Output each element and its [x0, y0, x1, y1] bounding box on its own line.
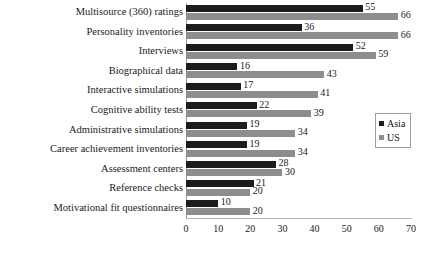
category-label: Interactive simulations: [87, 85, 183, 96]
bar-value-label: 34: [298, 127, 308, 137]
category-label: Administrative simulations: [69, 125, 183, 136]
legend-item-asia: Asia: [379, 117, 405, 131]
bar-us: [186, 91, 318, 98]
x-tick-label: 40: [310, 224, 320, 234]
bar-us: [186, 52, 376, 59]
bar-value-label: 10: [221, 197, 231, 207]
bar-value-label: 16: [240, 61, 250, 71]
bar-value-label: 41: [320, 88, 330, 98]
bar-asia: [186, 122, 247, 129]
legend-label-asia: Asia: [387, 117, 405, 131]
bar-value-label: 17: [243, 80, 253, 90]
bar-value-label: 52: [356, 41, 366, 51]
bar-us: [186, 208, 250, 215]
bar-value-label: 66: [401, 10, 411, 20]
bar-asia: [186, 200, 218, 207]
bar-chart: Multisource (360) ratings5566Personality…: [0, 0, 435, 253]
bar-value-label: 19: [250, 119, 260, 129]
bar-asia: [186, 5, 363, 12]
category-label: Biographical data: [109, 66, 183, 77]
bar-asia: [186, 180, 254, 187]
x-tick-label: 20: [245, 224, 255, 234]
bar-value-label: 39: [314, 108, 324, 118]
bar-value-label: 30: [285, 167, 295, 177]
bar-value-label: 66: [401, 30, 411, 40]
bar-asia: [186, 102, 257, 109]
bar-us: [186, 169, 282, 176]
category-label: Motivational fit questionnaires: [54, 203, 183, 214]
bar-asia: [186, 83, 241, 90]
bar-asia: [186, 161, 276, 168]
category-label: Multisource (360) ratings: [76, 7, 183, 18]
x-tick-label: 30: [277, 224, 287, 234]
category-label: Interviews: [139, 46, 183, 57]
bar-asia: [186, 141, 247, 148]
bar-us: [186, 32, 398, 39]
bar-value-label: 36: [304, 22, 314, 32]
bar-value-label: 22: [259, 100, 269, 110]
bar-value-label: 43: [327, 69, 337, 79]
category-label: Career achievement inventories: [50, 144, 183, 155]
bar-us: [186, 13, 398, 20]
legend-label-us: US: [387, 131, 400, 145]
x-axis-line: [186, 218, 412, 219]
bar-asia: [186, 63, 237, 70]
bar-us: [186, 150, 295, 157]
x-tick-label: 0: [184, 224, 189, 234]
category-label: Personality inventories: [86, 27, 183, 38]
x-tick-label: 10: [213, 224, 223, 234]
category-label: Reference checks: [109, 183, 183, 194]
bar-asia: [186, 44, 353, 51]
bar-value-label: 20: [253, 206, 263, 216]
legend-item-us: US: [379, 131, 405, 145]
x-tick-label: 50: [342, 224, 352, 234]
bar-value-label: 19: [250, 139, 260, 149]
bar-value-label: 34: [298, 147, 308, 157]
bar-us: [186, 189, 250, 196]
category-label: Assessment centers: [101, 164, 183, 175]
bar-value-label: 55: [365, 2, 375, 12]
bar-asia: [186, 24, 302, 31]
legend-swatch-icon-asia: [379, 121, 384, 126]
bar-value-label: 20: [253, 186, 263, 196]
bar-value-label: 59: [378, 49, 388, 59]
category-label: Cognitive ability tests: [91, 105, 183, 116]
bar-us: [186, 110, 311, 117]
bar-us: [186, 130, 295, 137]
chart-legend: Asia US: [375, 113, 411, 148]
legend-swatch-icon-us: [379, 135, 384, 140]
x-tick-label: 60: [374, 224, 384, 234]
bar-us: [186, 71, 324, 78]
x-tick-label: 70: [406, 224, 416, 234]
